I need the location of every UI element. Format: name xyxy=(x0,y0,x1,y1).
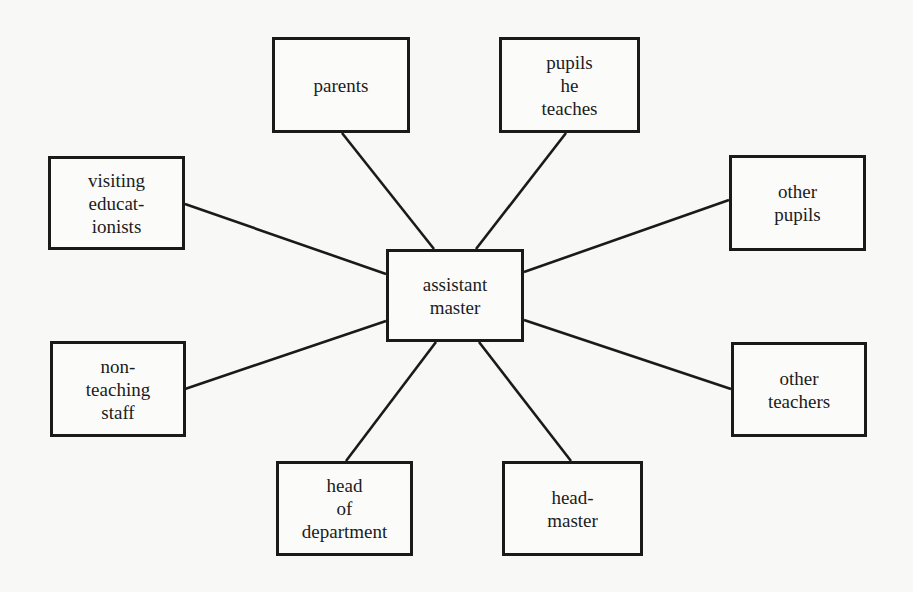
node-label-line: non- xyxy=(86,355,150,378)
node-label-line: teaching xyxy=(86,378,150,401)
node-label-line: of xyxy=(302,497,387,520)
connector-other-teachers xyxy=(524,320,731,389)
node-label-line: master xyxy=(547,509,598,532)
node-non-teaching-staff: non-teachingstaff xyxy=(50,341,186,437)
node-label-line: department xyxy=(302,520,387,543)
node-label-line: teaches xyxy=(542,97,598,120)
node-label-line: ionists xyxy=(88,215,145,238)
connector-visiting-educationists xyxy=(185,204,386,274)
node-label-line: head xyxy=(302,474,387,497)
node-label-line: head- xyxy=(547,486,598,509)
connector-head-of-department xyxy=(346,342,436,461)
connector-pupils-he-teaches xyxy=(476,133,566,249)
node-label-line: assistant xyxy=(423,273,487,296)
node-label-line: pupils xyxy=(774,203,820,226)
node-label-line: educat- xyxy=(88,192,145,215)
node-label-line: he xyxy=(542,74,598,97)
node-other-teachers: otherteachers xyxy=(731,342,867,437)
node-other-pupils: otherpupils xyxy=(729,155,866,251)
connector-other-pupils xyxy=(524,200,729,272)
node-assistant-master: assistant master xyxy=(386,249,524,342)
node-label-line: pupils xyxy=(542,51,598,74)
node-head-of-department: headofdepartment xyxy=(276,461,413,556)
node-label-line: teachers xyxy=(768,390,830,413)
node-label-line: parents xyxy=(314,74,369,97)
node-label-line: visiting xyxy=(88,169,145,192)
connector-non-teaching-staff xyxy=(185,321,386,389)
node-headmaster: head-master xyxy=(502,461,643,556)
connector-headmaster xyxy=(479,342,571,461)
node-pupils-he-teaches: pupilsheteaches xyxy=(499,37,640,133)
node-label-line: other xyxy=(774,180,820,203)
connector-parents xyxy=(342,133,434,249)
node-label-line: other xyxy=(768,367,830,390)
node-label-line: staff xyxy=(86,401,150,424)
node-label-line: master xyxy=(423,296,487,319)
node-parents: parents xyxy=(272,37,410,133)
node-visiting-educationists: visitingeducat-ionists xyxy=(48,156,185,250)
